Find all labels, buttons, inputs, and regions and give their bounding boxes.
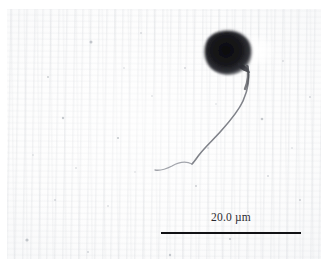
right-margin [321, 0, 326, 259]
scalebar-line [161, 232, 301, 234]
flagellum [192, 66, 249, 164]
micrograph-figure: 20.0 µm [0, 0, 326, 259]
top-margin [0, 0, 326, 9]
left-margin [0, 0, 7, 259]
scalebar-label: 20.0 µm [161, 211, 301, 224]
flagellum-distal [155, 162, 192, 170]
